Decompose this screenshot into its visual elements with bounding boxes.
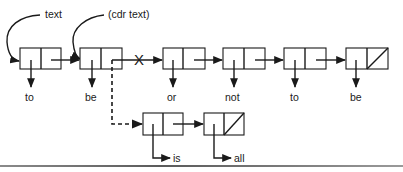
cons-cell-3 [163,48,205,69]
atom-label-is: is [173,152,181,164]
atom-label-4: not [225,91,240,103]
cons-cell-6-nil [346,48,388,69]
new-cdr-dashed-arrow [112,60,142,124]
atom-label-1: to [25,91,34,103]
label-cdr-text-pointer: (cdr text) [108,8,149,20]
cons-cell-diagram: text (cdr text) X to be or n [0,0,403,172]
broken-link-x-mark: X [134,51,144,68]
label-text-pointer: text [45,8,62,20]
cons-cell-4 [223,48,265,69]
cons-cell-2 [80,48,122,69]
atom-label-6: be [350,91,362,103]
cons-cell-5 [284,48,326,69]
atom-label-5: to [290,91,299,103]
atom-label-2: be [85,91,97,103]
atom-label-all: all [234,152,245,164]
bottom-rule [0,165,403,167]
atom-label-3: or [167,91,177,103]
inserted-cons-cell-2-nil [204,113,244,135]
cons-cell-1 [20,48,61,69]
